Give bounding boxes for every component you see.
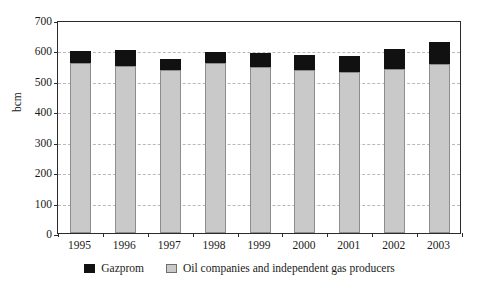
bar-stack bbox=[339, 20, 360, 233]
bar-stack bbox=[429, 20, 450, 233]
gray-swatch-icon bbox=[166, 264, 177, 273]
bar-stack bbox=[160, 20, 181, 233]
bar-stack bbox=[70, 20, 91, 233]
x-tick-label: 2003 bbox=[427, 240, 450, 252]
x-tick-mark bbox=[282, 233, 283, 237]
y-tick-label: 0 bbox=[46, 229, 52, 241]
bar-segment-others bbox=[250, 67, 271, 233]
plot-area: 0100200300400500600700 bbox=[57, 21, 461, 234]
bar-stack bbox=[115, 20, 136, 233]
bar-segment-gazprom bbox=[250, 53, 271, 67]
x-tick-label: 2001 bbox=[337, 240, 360, 252]
bar-segment-others bbox=[70, 63, 91, 233]
legend-label: Oil companies and independent gas produc… bbox=[183, 263, 395, 275]
x-tick-label: 2000 bbox=[292, 240, 315, 252]
x-tick-mark bbox=[417, 233, 418, 237]
bar-stack bbox=[294, 20, 315, 233]
bar-segment-gazprom bbox=[429, 42, 450, 64]
bar-segment-others bbox=[384, 69, 405, 233]
y-tick-label: 500 bbox=[35, 77, 52, 89]
x-tick-label: 1998 bbox=[203, 240, 226, 252]
bar-segment-others bbox=[339, 72, 360, 233]
bar-segment-gazprom bbox=[160, 59, 181, 69]
x-tick-label: 1996 bbox=[113, 240, 136, 252]
y-tick-label: 100 bbox=[35, 199, 52, 211]
bar-segment-gazprom bbox=[115, 50, 136, 67]
bar-segment-gazprom bbox=[339, 56, 360, 72]
y-tick-label: 200 bbox=[35, 168, 52, 180]
x-tick-mark bbox=[193, 233, 194, 237]
bar-segment-gazprom bbox=[294, 55, 315, 70]
bar-segment-gazprom bbox=[70, 51, 91, 62]
y-tick-mark bbox=[54, 22, 58, 23]
bar-segment-gazprom bbox=[384, 49, 405, 69]
x-tick-label: 1997 bbox=[158, 240, 181, 252]
y-tick-label: 600 bbox=[35, 47, 52, 59]
x-tick-label: 2002 bbox=[382, 240, 405, 252]
black-swatch-icon bbox=[84, 264, 95, 273]
legend-item: Oil companies and independent gas produc… bbox=[166, 263, 395, 275]
x-tick-mark bbox=[462, 233, 463, 237]
bar-chart: bcm 0100200300400500600700 1995199619971… bbox=[0, 0, 479, 294]
y-tick-label: 300 bbox=[35, 138, 52, 150]
bar-stack bbox=[250, 20, 271, 233]
x-tick-mark bbox=[327, 233, 328, 237]
chart-legend: GazpromOil companies and independent gas… bbox=[0, 263, 479, 275]
bar-segment-others bbox=[294, 70, 315, 233]
x-tick-mark bbox=[238, 233, 239, 237]
y-tick-label: 400 bbox=[35, 108, 52, 120]
bar-segment-others bbox=[205, 63, 226, 233]
legend-label: Gazprom bbox=[101, 263, 144, 275]
y-tick-label: 700 bbox=[35, 16, 52, 28]
bar-segment-others bbox=[429, 64, 450, 233]
bar-segment-gazprom bbox=[205, 52, 226, 64]
legend-item: Gazprom bbox=[84, 263, 144, 275]
x-tick-mark bbox=[148, 233, 149, 237]
x-tick-mark bbox=[58, 233, 59, 237]
x-tick-mark bbox=[103, 233, 104, 237]
x-tick-mark bbox=[372, 233, 373, 237]
x-tick-label: 1995 bbox=[68, 240, 91, 252]
bar-segment-others bbox=[115, 66, 136, 233]
bar-segment-others bbox=[160, 70, 181, 233]
bar-stack bbox=[384, 20, 405, 233]
y-axis-title: bcm bbox=[12, 92, 24, 112]
x-tick-label: 1999 bbox=[248, 240, 271, 252]
bar-stack bbox=[205, 20, 226, 233]
